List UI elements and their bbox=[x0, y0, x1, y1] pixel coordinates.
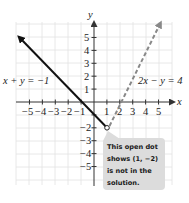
svg-text:−5: −5 bbox=[80, 161, 91, 172]
svg-text:−5: −5 bbox=[22, 106, 33, 117]
svg-text:5: 5 bbox=[156, 106, 161, 117]
svg-text:−2: −2 bbox=[61, 106, 72, 117]
open-dot bbox=[105, 126, 110, 131]
callout-line-1: This open dot bbox=[107, 143, 158, 151]
svg-text:1: 1 bbox=[84, 84, 89, 95]
svg-text:1: 1 bbox=[104, 106, 109, 117]
callout-line-3: is not in the bbox=[107, 167, 152, 175]
svg-text:4: 4 bbox=[84, 45, 90, 56]
label-line2: 2x − y = 4 bbox=[138, 75, 183, 86]
callout-line-2: shows (1, −2) bbox=[107, 155, 158, 163]
callout-line-4: solution. bbox=[107, 179, 140, 187]
label-line1: x + y = −1 bbox=[2, 75, 49, 86]
svg-text:−2: −2 bbox=[80, 122, 91, 133]
svg-text:4: 4 bbox=[143, 106, 149, 117]
y-axis-label: y bbox=[87, 9, 93, 20]
svg-text:−4: −4 bbox=[35, 106, 47, 117]
svg-text:−3: −3 bbox=[48, 106, 59, 117]
svg-text:−1: −1 bbox=[74, 106, 85, 117]
svg-text:3: 3 bbox=[130, 106, 135, 117]
svg-text:−4: −4 bbox=[80, 148, 92, 159]
svg-text:2: 2 bbox=[84, 71, 89, 82]
x-axis-label: x bbox=[176, 96, 182, 107]
svg-text:3: 3 bbox=[84, 58, 89, 69]
callout: This open dot shows (1, −2) is not in th… bbox=[103, 131, 165, 190]
svg-text:−3: −3 bbox=[80, 135, 91, 146]
graph: x y −5 −4 −3 −2 −1 1 2 3 4 5 5 4 3 2 1 −… bbox=[0, 0, 189, 203]
svg-text:5: 5 bbox=[84, 32, 89, 43]
